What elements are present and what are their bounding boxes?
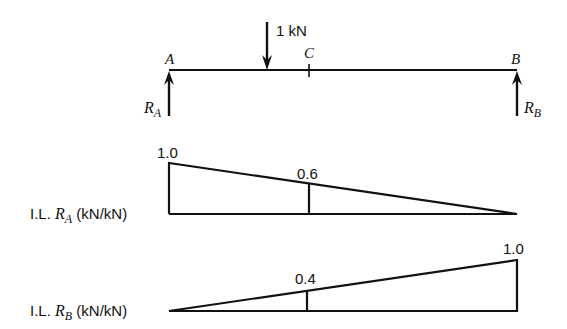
il-rb-label: I.L. RB (kN/kN) <box>30 302 127 323</box>
point-c-label: C <box>304 45 315 61</box>
il-ra-diagram <box>169 163 517 214</box>
reaction-a-label: RA <box>143 99 162 120</box>
il-ra-label: I.L. RA (kN/kN) <box>30 205 127 226</box>
il-rb-value-b: 1.0 <box>503 240 524 257</box>
il-ra-value-c: 0.6 <box>297 165 318 182</box>
il-rb-diagram <box>169 260 517 311</box>
il-rb-outline <box>169 260 517 311</box>
il-ra-outline <box>169 163 517 214</box>
influence-line-diagram: 1 kN A C B RA RB 1.0 0.6 I.L. RA (kN/kN)… <box>0 0 567 329</box>
beam-group <box>164 22 522 116</box>
support-a-label: A <box>164 51 175 67</box>
il-rb-value-c: 0.4 <box>295 270 316 287</box>
support-b-label: B <box>511 51 520 67</box>
load-label: 1 kN <box>276 22 307 39</box>
reaction-b-label: RB <box>523 99 542 120</box>
il-ra-value-a: 1.0 <box>157 144 178 161</box>
